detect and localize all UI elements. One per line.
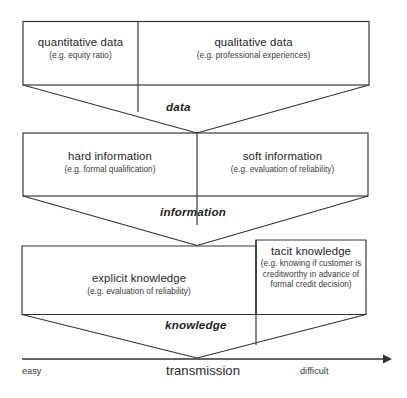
knowledge-funnel-right-edge bbox=[197, 315, 366, 359]
knowledge-funnel-left-edge bbox=[22, 315, 197, 359]
explicit-knowledge-box bbox=[22, 246, 256, 315]
data-level-box bbox=[23, 22, 369, 86]
data-funnel-right-edge bbox=[197, 85, 369, 133]
tacit-knowledge-box bbox=[256, 240, 366, 315]
data-funnel-left-edge bbox=[23, 85, 197, 133]
diagram-vector-layer bbox=[0, 0, 407, 398]
information-funnel-left-edge bbox=[23, 196, 197, 246]
right-arrow-icon bbox=[383, 355, 392, 364]
information-level-box bbox=[23, 133, 368, 196]
information-funnel-right-edge bbox=[197, 196, 368, 246]
diagram-canvas: quantitative data (e.g. equity ratio) qu… bbox=[0, 0, 407, 398]
